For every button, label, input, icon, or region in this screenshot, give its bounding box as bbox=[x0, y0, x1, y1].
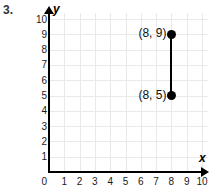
gridline-horizontal bbox=[49, 157, 208, 158]
gridline-horizontal bbox=[49, 126, 208, 127]
gridline-horizontal bbox=[49, 96, 208, 97]
problem-number: 3. bbox=[3, 4, 13, 17]
y-tick-label: 5 bbox=[31, 90, 47, 101]
data-point bbox=[167, 30, 176, 39]
gridline-vertical bbox=[110, 13, 111, 172]
coordinate-plane-figure: 3. y x 0 1234567891012345678910 (8, 9)(8… bbox=[0, 0, 214, 194]
gridline-vertical bbox=[64, 13, 65, 172]
gridline-horizontal bbox=[49, 80, 208, 81]
x-tick-label: 8 bbox=[163, 176, 179, 187]
gridline-vertical bbox=[95, 13, 96, 172]
x-axis-label: x bbox=[199, 152, 206, 165]
y-tick-label: 9 bbox=[31, 29, 47, 40]
data-point-label: (8, 9) bbox=[138, 27, 166, 40]
x-tick-label: 1 bbox=[56, 176, 72, 187]
y-tick-label: 10 bbox=[31, 14, 47, 25]
gridline-vertical bbox=[80, 13, 81, 172]
y-tick-label: 6 bbox=[31, 75, 47, 86]
y-axis-label: y bbox=[53, 3, 60, 16]
y-tick-label: 7 bbox=[31, 59, 47, 70]
x-tick-label: 4 bbox=[102, 176, 118, 187]
y-tick-label: 8 bbox=[31, 44, 47, 55]
y-tick-label: 3 bbox=[31, 121, 47, 132]
gridline-horizontal bbox=[49, 34, 208, 35]
y-tick-label: 1 bbox=[31, 151, 47, 162]
x-tick-label: 10 bbox=[194, 176, 210, 187]
x-axis-line bbox=[49, 171, 203, 173]
plot-area bbox=[49, 19, 202, 172]
data-point-label: (8, 5) bbox=[138, 89, 166, 102]
gridline-horizontal bbox=[49, 65, 208, 66]
x-tick-label: 7 bbox=[148, 176, 164, 187]
y-axis-line bbox=[48, 13, 50, 173]
y-tick-label: 2 bbox=[31, 136, 47, 147]
x-tick-label: 6 bbox=[133, 176, 149, 187]
x-tick-label: 3 bbox=[87, 176, 103, 187]
gridline-horizontal bbox=[49, 19, 208, 20]
x-tick-label: 5 bbox=[118, 176, 134, 187]
y-tick-label: 4 bbox=[31, 105, 47, 116]
x-tick-label: 9 bbox=[179, 176, 195, 187]
line-segment bbox=[170, 34, 172, 95]
origin-tick-label: 0 bbox=[31, 176, 47, 187]
gridline-horizontal bbox=[49, 111, 208, 112]
data-point bbox=[167, 91, 176, 100]
gridline-vertical bbox=[202, 13, 203, 172]
gridline-vertical bbox=[187, 13, 188, 172]
gridline-horizontal bbox=[49, 50, 208, 51]
gridline-vertical bbox=[126, 13, 127, 172]
x-tick-label: 2 bbox=[72, 176, 88, 187]
gridline-horizontal bbox=[49, 141, 208, 142]
